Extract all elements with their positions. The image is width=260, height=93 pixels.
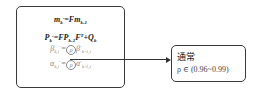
equation-covariance-prediction: Pk-=FPk-1FT+Qk [17, 33, 124, 43]
rho-circle-icon: ρ [66, 45, 76, 55]
annotation-condition: ρ ∈ (0.96~0.99) [177, 65, 229, 74]
equation-state-prediction: mk-=Fmk-1 [17, 15, 124, 25]
eq4-rhs-sub: k-1,i [82, 64, 91, 69]
annotation-box: 通常 ρ ∈ (0.96~0.99) [171, 45, 246, 82]
eq2-lhs-sub: k [50, 38, 53, 43]
equation-beta-update: βk,i-=ρβ-k-1,i [17, 44, 124, 55]
eq3-lhs-sub: k,i [54, 49, 59, 54]
eq4-lhs-sub: k,i [54, 64, 59, 69]
connector-arrow-line [70, 59, 168, 60]
annotation-title: 通常 [177, 50, 195, 63]
eq2-rhs-a: FP [58, 33, 68, 42]
eq1-lhs-sub: k [60, 20, 63, 25]
eq2-rhs-c-sub: k [94, 38, 97, 43]
eq1-rhs: Fm [69, 15, 81, 24]
rho-circle-icon: ρ [66, 60, 76, 70]
equations-box: mk-=Fmk-1 Pk-=FPk-1FT+Qk βk,i-=ρβ-k-1,i … [16, 6, 125, 88]
equation-alpha-update: αk,i-=ρα-k-1,i [17, 59, 124, 70]
eq3-rhs-sub: k-1,i [82, 49, 91, 54]
eq1-rhs-sub: k-1 [80, 20, 87, 25]
eq2-rhs-c: +Q [84, 33, 94, 42]
